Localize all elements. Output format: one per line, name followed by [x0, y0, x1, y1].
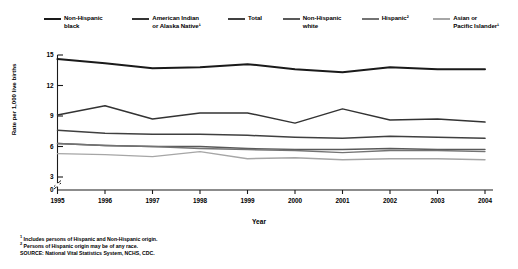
- legend-label-non-hispanic-black: Non-Hispanic black: [64, 14, 103, 29]
- legend-label-total: Total: [248, 14, 262, 22]
- legend-label-hispanic: Hispanic²: [382, 14, 409, 22]
- svg-text:1998: 1998: [193, 197, 208, 204]
- series-line-non-hispanic-black: [58, 59, 486, 72]
- svg-text:1999: 1999: [240, 197, 255, 204]
- infant-mortality-line-chart: Non-Hispanic black American Indian or Al…: [0, 0, 518, 269]
- svg-text:0: 0: [50, 186, 54, 193]
- axis-lines: [58, 55, 494, 190]
- svg-text:12: 12: [46, 82, 54, 89]
- legend-label-non-hispanic-white: Non-Hispanic white: [303, 14, 342, 29]
- legend-item-total[interactable]: Total: [228, 14, 277, 22]
- x-axis-ticks: [58, 190, 486, 194]
- x-axis-title: Year: [0, 218, 518, 225]
- legend-item-american-indian-or-alaska-native[interactable]: American Indian or Alaska Native¹: [132, 14, 222, 29]
- legend-item-non-hispanic-black[interactable]: Non-Hispanic black: [44, 14, 126, 29]
- y-axis-tick-labels: 03691215: [46, 51, 54, 193]
- svg-text:2004: 2004: [478, 197, 493, 204]
- svg-text:6: 6: [50, 143, 54, 150]
- y-axis-ticks: [58, 55, 64, 177]
- chart-legend: Non-Hispanic black American Indian or Al…: [44, 14, 514, 42]
- svg-text:1997: 1997: [145, 197, 160, 204]
- svg-text:1995: 1995: [50, 197, 65, 204]
- legend-swatch-hispanic: [362, 18, 379, 20]
- svg-text:2002: 2002: [383, 197, 398, 204]
- legend-swatch-asian-or-pacific-islander: [433, 18, 450, 20]
- series-line-american-indian-or-alaska-native: [58, 106, 486, 123]
- legend-label-asian-or-pacific-islander: Asian or Pacific Islander¹: [453, 14, 499, 29]
- series-line-total: [58, 130, 486, 138]
- legend-label-american-indian-or-alaska-native: American Indian or Alaska Native¹: [152, 14, 200, 29]
- legend-item-asian-or-pacific-islander[interactable]: Asian or Pacific Islander¹: [433, 14, 508, 29]
- legend-swatch-total: [228, 18, 245, 20]
- footnote-2-text: Persons of Hispanic origin may be of any…: [24, 243, 138, 249]
- footnote-1-text: Includes persons of Hispanic and Non-His…: [24, 236, 158, 242]
- svg-text:2003: 2003: [430, 197, 445, 204]
- legend-swatch-non-hispanic-black: [44, 18, 61, 20]
- svg-text:3: 3: [50, 173, 54, 180]
- y-axis-title: Rate per 1,000 live births: [10, 45, 17, 155]
- legend-swatch-american-indian-or-alaska-native: [132, 18, 149, 20]
- svg-text:1996: 1996: [98, 197, 113, 204]
- legend-swatch-non-hispanic-white: [283, 18, 300, 20]
- footnotes-block: 1 Includes persons of Hispanic and Non-H…: [20, 236, 320, 257]
- data-series-lines: [58, 59, 486, 160]
- footnote-1-marker: 1: [20, 234, 22, 239]
- x-axis-tick-labels: 1995199619971998199920002001200220032004: [50, 197, 492, 204]
- svg-text:15: 15: [46, 51, 54, 58]
- footnote-2: 2 Persons of Hispanic origin may be of a…: [20, 243, 320, 250]
- footnote-2-marker: 2: [20, 241, 22, 246]
- legend-item-non-hispanic-white[interactable]: Non-Hispanic white: [283, 14, 356, 29]
- svg-text:2000: 2000: [288, 197, 303, 204]
- svg-text:9: 9: [50, 112, 54, 119]
- series-line-hispanic: [58, 143, 486, 152]
- legend-item-hispanic[interactable]: Hispanic²: [362, 14, 427, 22]
- series-line-asian-or-pacific-islander: [58, 152, 486, 160]
- svg-text:2001: 2001: [335, 197, 350, 204]
- plot-area: 03691215 1995199619971998199920002001200…: [0, 40, 518, 210]
- source-note: SOURCE: National Vital Statistics System…: [20, 250, 320, 257]
